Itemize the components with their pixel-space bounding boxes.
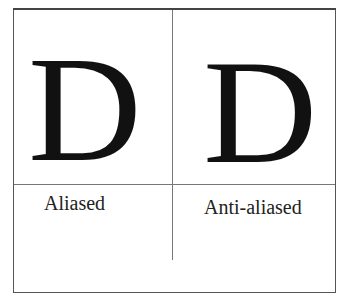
aliased-label: Aliased [44,192,105,215]
anti-aliased-label: Anti-aliased [204,196,302,219]
anti-aliased-letter-d: D [203,38,326,170]
frame-top-border [13,8,336,10]
aliased-letter-d: D [28,34,144,166]
vertical-divider [172,10,173,260]
